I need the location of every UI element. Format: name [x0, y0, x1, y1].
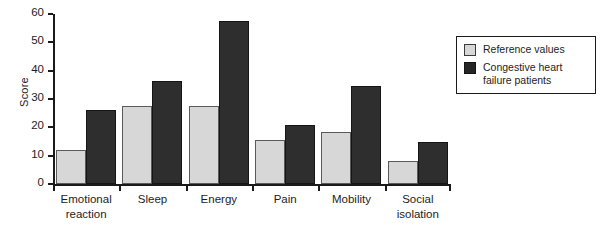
bar-chart-figure: Score 0102030405060 Emotional reactionSl… — [0, 0, 600, 231]
bar — [285, 125, 315, 185]
legend-label: Reference values — [483, 43, 565, 56]
y-axis-label: Score — [18, 62, 30, 122]
y-axis-tick: 60 — [48, 13, 53, 15]
y-axis-tick-label: 50 — [31, 33, 44, 47]
y-axis-tick-label: 20 — [31, 118, 44, 132]
y-axis-line — [53, 14, 55, 187]
x-axis-tick — [449, 186, 451, 191]
bar — [418, 142, 448, 185]
y-axis-tick-label: 10 — [31, 147, 44, 161]
legend-swatch-dark-square — [464, 62, 476, 74]
y-axis-tick-label: 40 — [31, 62, 44, 76]
y-axis-tick: 20 — [48, 126, 53, 128]
legend-swatch-light-gray-square — [464, 44, 476, 56]
bar — [86, 110, 116, 184]
bar — [152, 81, 182, 184]
y-axis-tick: 10 — [48, 155, 53, 157]
y-axis-tick: 0 — [48, 183, 53, 185]
y-axis-tick: 30 — [48, 98, 53, 100]
bar — [388, 161, 418, 184]
bar — [321, 132, 351, 184]
bar — [255, 140, 285, 184]
bar — [351, 86, 381, 184]
y-axis-tick-label: 0 — [38, 175, 44, 189]
legend-label: Congestive heart failure patients — [483, 61, 562, 86]
y-axis-tick-label: 30 — [31, 90, 44, 104]
y-axis-tick-label: 60 — [31, 5, 44, 19]
x-axis-tick — [53, 186, 55, 191]
bar — [189, 106, 219, 184]
x-axis-tick — [119, 186, 121, 191]
x-axis-category-label: Social isolation — [373, 192, 463, 222]
bar — [219, 21, 249, 184]
x-axis-tick — [385, 186, 387, 191]
bar — [122, 106, 152, 184]
x-axis-tick — [318, 186, 320, 191]
y-axis-tick: 50 — [48, 41, 53, 43]
x-axis-tick — [252, 186, 254, 191]
legend-entry-congestive-heart-failure-patients: Congestive heart failure patients — [464, 61, 590, 86]
legend: Reference values Congestive heart failur… — [456, 36, 596, 94]
legend-entry-reference-values: Reference values — [464, 43, 590, 56]
bar — [56, 150, 86, 184]
y-axis-tick: 40 — [48, 70, 53, 72]
plot-area: 0102030405060 — [53, 14, 451, 186]
x-axis-tick — [186, 186, 188, 191]
